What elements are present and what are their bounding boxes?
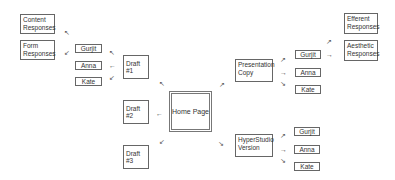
student-kate: Kate xyxy=(294,162,320,171)
arrow-sw: ↙ xyxy=(64,49,70,56)
arrow-ne: ↗ xyxy=(326,38,332,45)
student-anna: Anna xyxy=(75,61,102,70)
student-gurjit: Gurjit xyxy=(295,50,321,59)
student-gurjit: Gurjit xyxy=(294,127,320,136)
arrow-se: ↘ xyxy=(280,157,286,164)
efferent-responses-box: Efferent Responses xyxy=(344,13,378,34)
arrow-e: → xyxy=(280,146,287,153)
student-gurjit: Gurjit xyxy=(75,44,102,53)
arrow-w: ← xyxy=(156,110,163,117)
hyperstudio-version-box: HyperStudio Version xyxy=(235,134,273,157)
arrow-sw: ↙ xyxy=(159,138,165,145)
arrow-nw: ↖ xyxy=(109,49,115,56)
arrow-ne: ↗ xyxy=(280,132,286,139)
draft-1-box: Draft #1 xyxy=(123,55,149,79)
form-responses-box: Form Responses xyxy=(20,40,55,60)
arrow-nw: ↖ xyxy=(64,29,70,36)
arrow-se: ↘ xyxy=(280,80,286,87)
student-kate: Kate xyxy=(75,77,102,86)
arrow-ne: ↗ xyxy=(219,81,225,88)
presentation-copy-box: Presentation Copy xyxy=(235,59,273,82)
arrow-nw: ↖ xyxy=(159,80,165,87)
diagram-canvas: Content Responses Form Responses ↖ ↙ Gur… xyxy=(0,0,395,180)
arrow-ne: ↗ xyxy=(280,56,286,63)
arrow-sw: ↙ xyxy=(109,74,115,81)
content-responses-box: Content Responses xyxy=(20,14,55,34)
aesthetic-responses-box: Aesthetic Responses xyxy=(344,40,378,61)
student-anna: Anna xyxy=(295,68,321,77)
arrow-e: → xyxy=(280,69,287,76)
draft-3-box: Draft #3 xyxy=(123,145,149,169)
draft-2-box: Draft #2 xyxy=(123,100,149,124)
student-anna: Anna xyxy=(294,145,320,154)
arrow-w: ← xyxy=(109,62,116,69)
arrow-e: → xyxy=(326,51,333,58)
home-page-box: Home Page xyxy=(169,91,212,132)
arrow-se: ↘ xyxy=(218,140,224,147)
student-kate: Kate xyxy=(295,85,321,94)
